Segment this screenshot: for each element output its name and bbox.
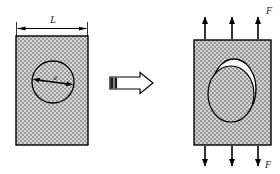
hole-inner-original (208, 66, 254, 122)
top-force-arrows (205, 17, 258, 39)
force-label-top: F (265, 5, 273, 16)
diameter-label: d (53, 74, 57, 82)
length-label: L (49, 14, 56, 25)
deformed-plate-group: F F (194, 5, 273, 170)
undeformed-plate-group: L d (16, 14, 88, 145)
bottom-force-arrows (205, 146, 258, 166)
figure-canvas: L d F (0, 0, 280, 174)
force-label-bottom: F (264, 159, 272, 170)
transform-arrow-group (110, 73, 153, 94)
diagram-svg: L d F (0, 0, 280, 174)
